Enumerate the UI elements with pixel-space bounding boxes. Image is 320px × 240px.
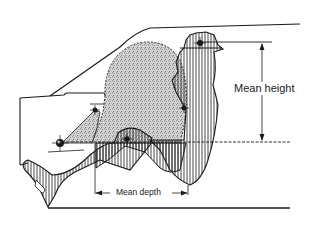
mean-depth-label: Mean depth	[115, 188, 162, 197]
depth-arrow-right	[181, 191, 188, 196]
depth-arrow-left	[96, 191, 103, 196]
seat-cushion	[96, 143, 186, 172]
mean-height-label: Mean height	[233, 82, 296, 95]
mean-height-arrow-top	[260, 43, 265, 50]
dashboard-outline	[20, 93, 106, 98]
heel-point-marker	[52, 135, 68, 151]
steering-base	[48, 150, 84, 152]
mean-height-arrow-bottom	[260, 134, 265, 141]
